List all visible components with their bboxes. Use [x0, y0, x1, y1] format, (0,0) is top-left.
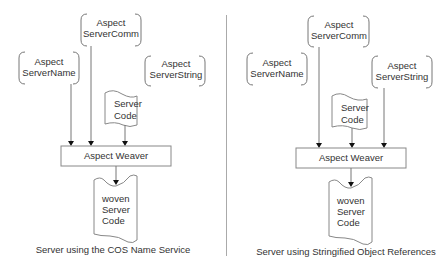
aspect-servercomm: Aspect ServerComm — [308, 16, 369, 47]
aspect-serverstring-label-2: ServerString — [150, 69, 203, 80]
aspect-servername-label-2: ServerName — [22, 67, 75, 78]
woven-server-code-document: woven Server Code — [94, 175, 137, 243]
woven-label-1: woven — [336, 195, 364, 206]
server-code-label-1: Server — [341, 102, 369, 113]
caption-stringified-object-references: Server using Stringified Object Referenc… — [256, 246, 436, 257]
aspect-servercomm-label-1: Aspect — [324, 19, 353, 30]
server-code-document: Server Code — [105, 91, 142, 127]
woven-server-code-document: woven Server Code — [329, 177, 372, 245]
aspect-servername: Aspect ServerName — [19, 52, 79, 84]
aspect-serverstring: Aspect ServerString — [145, 56, 205, 86]
aspect-serverstring-label-2: ServerString — [376, 71, 429, 82]
weaver-input-arrows — [316, 47, 387, 148]
arrowhead — [88, 141, 94, 146]
panel-cos-name-service: Aspect ServerComm Aspect ServerName Aspe… — [19, 14, 205, 255]
aspect-servername-label-1: Aspect — [262, 57, 291, 68]
arrowhead — [316, 143, 322, 148]
aspect-weaver-label: Aspect Weaver — [319, 152, 383, 163]
server-code-label-2: Code — [341, 114, 364, 125]
aspect-serverstring-label-1: Aspect — [161, 58, 190, 69]
aspect-servername-label-2: ServerName — [250, 68, 303, 79]
server-code-label-2: Code — [114, 110, 137, 121]
aspect-serverstring-label-1: Aspect — [387, 60, 416, 71]
arrowhead — [68, 141, 74, 146]
caption-cos-name-service: Server using the COS Name Service — [36, 244, 191, 255]
woven-label-2: Server — [337, 206, 365, 217]
aspect-servercomm-label-2: ServerComm — [311, 30, 367, 41]
panel-stringified-object-references: Aspect ServerComm Aspect ServerName Aspe… — [247, 16, 436, 257]
aspect-servername-label-1: Aspect — [34, 56, 63, 67]
arrowhead — [113, 180, 119, 185]
woven-label-3: Code — [102, 215, 125, 226]
arrowhead — [348, 182, 354, 187]
aspect-servercomm-label-1: Aspect — [96, 17, 125, 28]
arrowhead — [122, 141, 128, 146]
woven-label-2: Server — [102, 204, 130, 215]
aspect-weaving-diagram: Aspect ServerComm Aspect ServerName Aspe… — [0, 0, 447, 273]
woven-label-3: Code — [337, 217, 360, 228]
aspect-servercomm-label-2: ServerComm — [83, 28, 139, 39]
aspect-weaver-label: Aspect Weaver — [84, 150, 148, 161]
aspect-servercomm: Aspect ServerComm — [81, 14, 141, 46]
server-code-label-1: Server — [114, 98, 142, 109]
arrowhead — [349, 143, 355, 148]
server-code-document: Server Code — [332, 94, 369, 130]
aspect-serverstring: Aspect ServerString — [372, 56, 432, 88]
woven-label-1: woven — [101, 193, 129, 204]
aspect-servername: Aspect ServerName — [247, 53, 307, 85]
arrowhead — [381, 143, 387, 148]
aspect-weaver-box: Aspect Weaver — [61, 146, 171, 166]
aspect-weaver-box: Aspect Weaver — [296, 148, 406, 168]
